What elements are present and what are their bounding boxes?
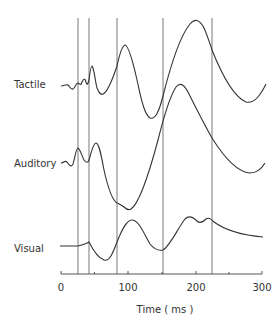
x-tick-label-300: 300: [252, 282, 271, 293]
tactile-curve: [61, 20, 266, 118]
x-axis: 0 100 200 300 Time ( ms ): [58, 271, 272, 315]
visual-label: Visual: [14, 243, 44, 254]
x-tick-label-200: 200: [186, 282, 205, 293]
evoked-potential-chart: Tactile Auditory Visual 0 100 200 300 Ti…: [0, 0, 279, 322]
x-axis-title: Time ( ms ): [136, 304, 194, 315]
x-tick-label-100: 100: [118, 282, 137, 293]
x-tick-label-0: 0: [58, 282, 64, 293]
visual-curve: [60, 217, 263, 260]
tactile-label: Tactile: [13, 79, 46, 90]
auditory-label: Auditory: [14, 158, 56, 169]
